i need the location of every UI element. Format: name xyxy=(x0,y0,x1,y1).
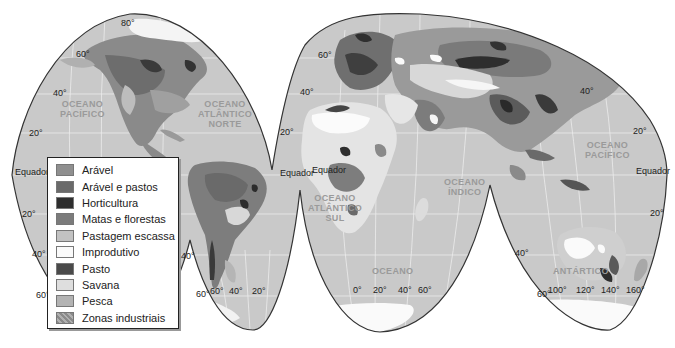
lat-label-60n-mid: 60° xyxy=(318,51,332,60)
legend-label: Arável e pastos xyxy=(82,181,158,193)
lon-label-sa-60: 60° xyxy=(210,287,224,296)
legend-swatch-aravel xyxy=(56,164,74,176)
legend-item-aravel: Arável xyxy=(56,162,178,178)
lat-label-40s-left: 40° xyxy=(32,250,46,259)
lat-label-20n-right: 20° xyxy=(633,127,647,136)
legend-label: Horticultura xyxy=(82,197,138,209)
lon-label-sa-40: 40° xyxy=(229,287,243,296)
legend-item-pesca: Pesca xyxy=(56,293,178,309)
legend-item-horticultura: Horticultura xyxy=(56,195,178,211)
lat-label-80n: 80° xyxy=(121,19,135,28)
lat-label-40n-right: 40° xyxy=(580,87,594,96)
legend-swatch-savana xyxy=(56,279,74,291)
legend-item-pastagem-escassa: Pastagem escassa xyxy=(56,228,178,244)
legend-swatch-pesca xyxy=(56,295,74,307)
ocean-label-pacifico-oeste: OCEANO PACÍFICO xyxy=(585,140,630,160)
legend-label: Savana xyxy=(82,279,119,291)
lon-label-au-120: 120° xyxy=(576,286,595,295)
legend-swatch-aravel-e-pastos xyxy=(56,181,74,193)
lon-label-au-140: 140° xyxy=(601,286,620,295)
lat-label-40s-sa: 40° xyxy=(181,252,195,261)
ocean-label-indico: OCEANO ÍNDICO xyxy=(444,177,485,197)
lat-label-20n-mid: 20° xyxy=(280,128,294,137)
legend-item-improdutivo: Improdutivo xyxy=(56,244,178,260)
ocean-label-atlantico-norte: OCEANO ATLÂNTICO NORTE xyxy=(198,99,252,129)
lon-label-af-60: 60° xyxy=(418,286,432,295)
lon-label-af-20: 20° xyxy=(373,286,387,295)
legend-swatch-matas-e-florestas xyxy=(56,213,74,225)
equator-label-mid: Equador xyxy=(280,169,314,178)
legend-label: Pesca xyxy=(82,295,113,307)
legend-swatch-improdutivo xyxy=(56,246,74,258)
legend-label: Pasto xyxy=(82,263,110,275)
legend-item-aravel-e-pastos: Arável e pastos xyxy=(56,178,178,194)
ocean-label-atlantico-sul: OCEANO ATLÂNTICO SUL xyxy=(308,193,362,223)
legend-label: Matas e florestas xyxy=(82,213,166,225)
legend-label: Arável xyxy=(82,164,113,176)
lon-label-au-100: 100° xyxy=(548,286,567,295)
legend-swatch-horticultura xyxy=(56,197,74,209)
equator-label-left: Equador xyxy=(15,168,49,177)
lon-label-sa-20: 20° xyxy=(252,287,266,296)
lat-label-20s-left: 20° xyxy=(22,210,36,219)
legend-item-savana: Savana xyxy=(56,277,178,293)
equator-label-mid2: Equador xyxy=(312,166,346,175)
legend-label: Improdutivo xyxy=(82,246,139,258)
legend-item-pasto: Pasto xyxy=(56,260,178,276)
legend-swatch-zonas-industriais xyxy=(56,312,74,324)
lat-label-40n-left: 40° xyxy=(53,89,67,98)
ocean-label-oceano-sul: OCEANO xyxy=(372,266,413,276)
lon-label-af-0: 0° xyxy=(353,286,362,295)
lat-label-40s-au: 40° xyxy=(515,249,529,258)
legend-swatch-pastagem-escassa xyxy=(56,230,74,242)
lon-label-au-160: 160° xyxy=(626,286,645,295)
lat-label-60s-sa: 60° xyxy=(196,290,210,299)
lat-label-20s-right: 20° xyxy=(650,209,664,218)
ocean-label-pacifico-norte: OCEANO PACÍFICO xyxy=(60,99,105,119)
map-legend: Arável Arável e pastos Horticultura Mata… xyxy=(47,157,179,329)
lat-label-20n-left: 20° xyxy=(29,129,43,138)
legend-swatch-pasto xyxy=(56,263,74,275)
lat-label-60n-left: 60° xyxy=(76,50,90,59)
lat-label-40n-mid: 40° xyxy=(300,88,314,97)
legend-item-zonas-industriais: Zonas industriais xyxy=(56,310,178,326)
legend-label: Pastagem escassa xyxy=(82,230,175,242)
lon-label-af-40: 40° xyxy=(398,286,412,295)
equator-label-right: Equador xyxy=(636,167,670,176)
legend-item-matas-e-florestas: Matas e florestas xyxy=(56,211,178,227)
ocean-label-antartico: ANTÁRTICO xyxy=(553,266,609,276)
legend-label: Zonas industriais xyxy=(82,312,165,324)
